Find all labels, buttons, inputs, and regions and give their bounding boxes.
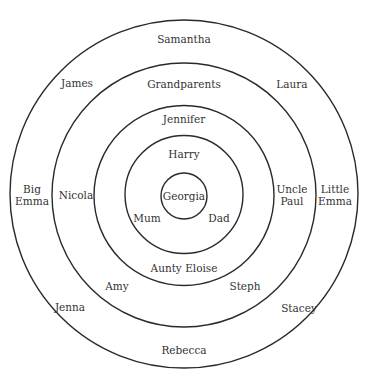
label-uncle-paul-line1: Uncle [276,183,307,195]
label-big-emma-line2: Emma [15,195,49,207]
label-nicola: Nicola [59,189,93,201]
label-grandparents: Grandparents [147,78,221,90]
label-james: James [60,77,93,89]
label-big-emma-line1: Big [23,183,41,195]
diagram-canvas: Georgia Harry Mum Dad Jennifer Aunty Elo… [0,0,368,383]
label-stacey: Stacey [281,302,317,314]
label-little-emma-line1: Little [321,183,349,195]
label-amy: Amy [104,280,129,292]
label-laura: Laura [276,78,307,90]
label-georgia: Georgia [163,190,205,202]
label-aunty-eloise: Aunty Eloise [150,262,218,274]
label-dad: Dad [208,212,230,224]
label-mum: Mum [133,212,161,224]
label-harry: Harry [168,148,199,160]
label-rebecca: Rebecca [161,344,206,356]
social-circles-diagram: Georgia Harry Mum Dad Jennifer Aunty Elo… [0,0,368,383]
label-samantha: Samantha [157,33,211,45]
label-steph: Steph [229,280,260,292]
label-uncle-paul-line2: Paul [281,195,305,207]
label-jenna: Jenna [54,301,85,313]
label-jennifer: Jennifer [162,113,206,125]
label-little-emma-line2: Emma [318,195,352,207]
